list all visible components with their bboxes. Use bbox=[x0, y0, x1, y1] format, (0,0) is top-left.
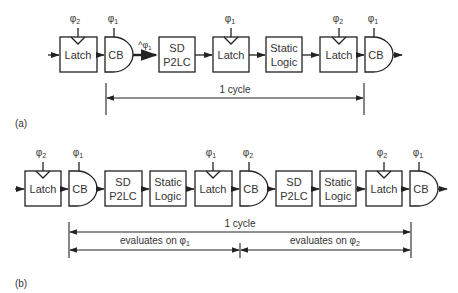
svg-text:Static: Static bbox=[154, 176, 182, 188]
svg-text:P2LC: P2LC bbox=[280, 190, 308, 202]
cb-block: CB φ2 bbox=[240, 147, 268, 206]
svg-text:evaluates on φ1: evaluates on φ1 bbox=[120, 235, 190, 247]
svg-text:φ2: φ2 bbox=[333, 13, 343, 25]
svg-text:CB: CB bbox=[413, 183, 428, 195]
svg-text:φ1: φ1 bbox=[108, 13, 118, 25]
svg-text:Latch: Latch bbox=[371, 183, 398, 195]
latch-block: Latch φ1 bbox=[213, 13, 249, 72]
svg-text:φ1: φ1 bbox=[73, 147, 83, 159]
svg-text:Logic: Logic bbox=[271, 56, 298, 68]
svg-text:Static: Static bbox=[324, 176, 352, 188]
latch-block: Latch φ2 bbox=[320, 13, 357, 72]
svg-text:P2LC: P2LC bbox=[109, 190, 137, 202]
svg-text:Latch: Latch bbox=[326, 49, 353, 61]
wire-label: ^φ bbox=[138, 40, 148, 50]
svg-text:Latch: Latch bbox=[218, 49, 245, 61]
svg-text:CB: CB bbox=[243, 183, 258, 195]
cb-block: CB φ1 bbox=[410, 147, 438, 206]
panel-label: (b) bbox=[15, 278, 27, 289]
svg-text:CB: CB bbox=[368, 49, 383, 61]
svg-text:φ2: φ2 bbox=[70, 13, 80, 25]
static-logic-block: Static Logic bbox=[266, 37, 302, 72]
span-label: evaluates on φ bbox=[120, 235, 186, 246]
svg-text:φ1: φ1 bbox=[225, 13, 235, 25]
svg-text:Logic: Logic bbox=[325, 190, 352, 202]
svg-text:φ1: φ1 bbox=[206, 147, 216, 159]
svg-text:evaluates on φ2: evaluates on φ2 bbox=[290, 235, 360, 247]
cb-block: CB φ1 bbox=[69, 147, 97, 206]
svg-text:φ1: φ1 bbox=[413, 147, 423, 159]
span-label: 1 cycle bbox=[219, 84, 251, 95]
block-label: Latch bbox=[65, 49, 92, 61]
panel-label: (a) bbox=[15, 118, 27, 129]
svg-text:P2LC: P2LC bbox=[163, 56, 191, 68]
latch-block: Latch φ2 bbox=[366, 147, 402, 206]
sd-p2lc-block: SD P2LC bbox=[159, 37, 195, 72]
latch-block: Latch φ1 bbox=[195, 147, 232, 206]
svg-text:φ2: φ2 bbox=[243, 147, 253, 159]
svg-text:φ2: φ2 bbox=[36, 147, 46, 159]
panel-a: Latch φ2 CB φ1 ^φ1 SD P2LC Latch φ1 bbox=[15, 13, 402, 129]
evaluate-phi2-span: evaluates on φ2 bbox=[241, 235, 410, 250]
clocking-diagram: Latch φ2 CB φ1 ^φ1 SD P2LC Latch φ1 bbox=[0, 0, 458, 293]
cb-block: CB φ1 bbox=[365, 13, 393, 72]
svg-text:SD: SD bbox=[115, 176, 130, 188]
latch-block: Latch φ2 bbox=[25, 147, 61, 206]
svg-text:SD: SD bbox=[169, 42, 184, 54]
cycle-span: 1 cycle bbox=[106, 83, 364, 115]
static-logic-block: Static Logic bbox=[150, 171, 186, 206]
svg-text:CB: CB bbox=[72, 183, 87, 195]
svg-text:Latch: Latch bbox=[200, 183, 227, 195]
svg-text:Logic: Logic bbox=[155, 190, 182, 202]
svg-text:Latch: Latch bbox=[30, 183, 57, 195]
cb-block: CB φ1 bbox=[105, 13, 133, 72]
sd-p2lc-block: SD P2LC bbox=[105, 171, 142, 206]
svg-text:φ1: φ1 bbox=[368, 13, 378, 25]
evaluate-phi1-span: evaluates on φ1 bbox=[70, 235, 240, 258]
latch-block: Latch φ2 bbox=[60, 13, 97, 72]
span-label: 1 cycle bbox=[224, 218, 256, 229]
svg-text:Static: Static bbox=[270, 42, 298, 54]
panel-b: Latch φ2 CB φ1 SD P2LC Static Logic bbox=[15, 147, 447, 289]
svg-text:SD: SD bbox=[286, 176, 301, 188]
svg-text:φ2: φ2 bbox=[377, 147, 387, 159]
svg-text:^φ1: ^φ1 bbox=[138, 40, 152, 51]
block-label: CB bbox=[108, 49, 123, 61]
span-label: evaluates on φ bbox=[290, 235, 356, 246]
sd-p2lc-block: SD P2LC bbox=[276, 171, 312, 206]
static-logic-block: Static Logic bbox=[320, 171, 356, 206]
